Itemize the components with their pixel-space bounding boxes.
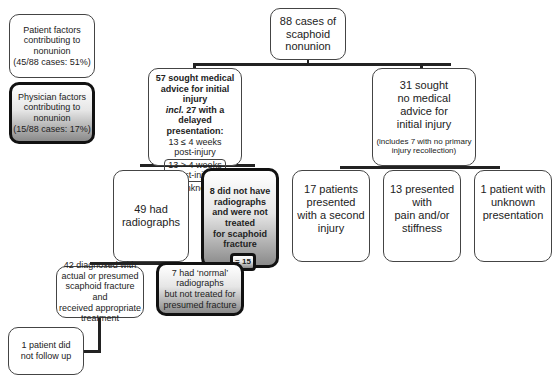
normal-line1: 7 had ‘normal’ [172,268,229,279]
radiographs-line1: 49 had [134,203,168,216]
unknown-line1: 1 patient with [481,183,546,196]
sought-line3: incl. 27 with a delayed [149,105,241,126]
root-line3: nonunion [285,40,330,53]
had-radiographs: 49 had radiographs [113,170,189,262]
no-medical-advice: 31 sought no medical advice for initial … [372,68,476,166]
connector-nofollow-horizontal [84,350,101,353]
diagnosed-line5: treatment [81,313,119,324]
unknown-presentation: 1 patient with unknown presentation [474,170,552,262]
connector-not-sought-horizontal [340,166,500,169]
legend-physician-line2: contributing to [24,102,81,113]
not-sought-note1: (includes 7 with no primary [376,137,471,146]
root-line1: 88 cases of [280,15,336,28]
sought-line2: advice for initial injury [149,84,241,105]
sought-line6: post-injury [174,147,216,158]
no-radiographs-line6: fracture [223,239,257,250]
legend-physician-line1: Physician factors [18,92,86,103]
root-88-cases: 88 cases of scaphoid nonunion [270,8,346,60]
no-radiographs-line4: treated [225,218,255,229]
radiographs-line2: radiographs [122,216,180,229]
diagnosed-line2: actual or presumed [61,271,138,282]
unknown-line2: unknown [491,196,535,209]
connector-root-horizontal [193,63,451,66]
no-radiographs-line3: and were not [212,207,268,218]
second-injury-line4: injury [318,222,344,235]
not-sought-line3: advice for [400,105,448,118]
normal-line2: radiographs [176,278,224,289]
pain-line2: with [412,196,432,209]
legend-patient-line2: contributing to [24,35,81,46]
legend-patient-factors: Patient factors contributing to nonunion… [9,14,95,78]
legend-patient-line3: nonunion [33,46,70,57]
diagnosed-treated: 42 diagnosed with actual or presumed sca… [56,266,144,318]
no-radiographs-line1: 8 did not have [210,186,271,197]
not-sought-line1: 31 sought [400,79,448,92]
sought-line1: 57 sought medical [156,73,235,84]
not-sought-note2: injury recollection) [392,146,456,155]
no-follow-line1: 1 patient did [21,340,70,351]
sought-line5: 13 ≤ 4 weeks [169,137,222,148]
no-follow-line2: not follow up [21,351,72,362]
diagnosed-line1: 42 diagnosed with [64,260,137,271]
no-radiographs-line5: for scaphoid [213,229,267,240]
pain-line4: stiffness [402,222,442,235]
diagnosed-line3: scaphoid fracture and [57,281,143,302]
sought-medical-advice: 57 sought medical advice for initial inj… [148,68,242,166]
not-sought-line2: no medical [397,92,450,105]
pain-line3: pain and/or [394,209,449,222]
not-sought-line4: initial injury [397,118,451,131]
diagnosed-line4: received appropriate [59,303,141,314]
normal-line3: but not treated for [164,289,235,300]
no-radiographs-line2: radiographs [214,197,266,208]
normal-line4: presumed fracture [163,300,236,311]
pain-line1: 13 presented [390,183,454,196]
second-injury-line3: with a second [297,209,364,222]
legend-patient-line1: Patient factors [23,25,81,36]
second-injury-line2: presented [307,196,356,209]
legend-patient-line4: (45/88 cases: 51%) [13,57,91,68]
second-injury-line1: 17 patients [304,183,358,196]
legend-physician-factors: Physician factors contributing to nonuni… [9,82,95,144]
sought-line3-rest: 27 with a delayed [178,105,224,126]
legend-physician-line4: (15/88 cases: 17%) [13,124,91,135]
legend-physician-line3: nonunion [33,113,70,124]
second-injury: 17 patients presented with a second inju… [292,170,370,262]
unknown-line3: presentation [483,209,544,222]
sought-incl: incl. [166,105,184,115]
normal-radiographs-not-treated: 7 had ‘normal’ radiographs but not treat… [156,262,244,316]
did-not-follow-up: 1 patient did not follow up [8,327,84,375]
root-line2: scaphoid [286,28,330,41]
pain-stiffness: 13 presented with pain and/or stiffness [383,170,461,262]
sought-line4: presentation: [166,126,223,137]
